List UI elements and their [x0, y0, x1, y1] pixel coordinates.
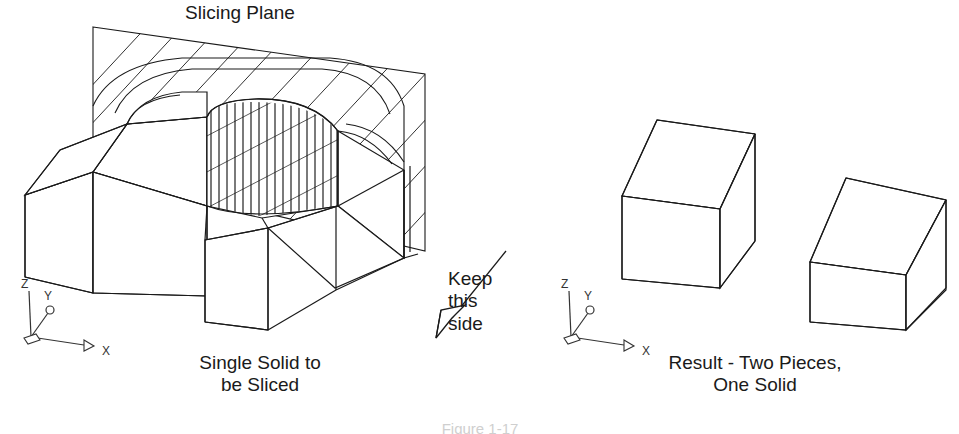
axis-label-z: Z [21, 277, 28, 291]
result-piece-1 [622, 120, 755, 288]
axis-label-y: Y [584, 289, 592, 303]
left-view-group: Z Y X [21, 0, 506, 382]
result-piece-2 [810, 178, 946, 330]
single-solid-label: Single Solid to be Sliced [130, 352, 390, 397]
result-label: Result - Two Pieces, One Solid [610, 352, 900, 397]
figure-canvas: Z Y X [0, 0, 959, 434]
axis-label-y: Y [44, 289, 52, 303]
axis-label-z: Z [561, 277, 568, 291]
axes-icon-right: Z Y X [561, 277, 650, 358]
right-view-group: Z Y X [561, 120, 946, 358]
slicing-plane-label: Slicing Plane [0, 2, 480, 24]
axis-label-x: X [102, 344, 110, 358]
keep-this-side-label: Keep this side [448, 268, 522, 335]
figure-caption: Figure 1-17 [330, 420, 630, 434]
